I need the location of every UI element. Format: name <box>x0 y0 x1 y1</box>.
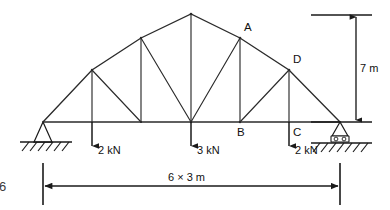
label-node-a: A <box>244 21 252 33</box>
left-ground-hatching <box>22 142 69 151</box>
load-left: 2 kN <box>92 122 121 156</box>
roller-support-triangle <box>332 122 348 136</box>
diagonal-web-4 <box>240 70 289 122</box>
truss-figure: A D B C <box>0 0 390 210</box>
load-middle-label: 3 kN <box>197 144 220 156</box>
roller-wheel-1 <box>334 137 338 141</box>
page-edge-mark: 6 <box>0 179 6 194</box>
joint-top-2 <box>140 37 142 39</box>
joint-d <box>288 69 291 72</box>
right-ground-hatching <box>313 143 368 152</box>
joint-apex <box>190 13 193 16</box>
joint-a <box>239 37 242 40</box>
diagonal-web-2 <box>141 38 191 122</box>
right-roller-support <box>311 122 372 152</box>
left-pinned-support <box>20 122 72 151</box>
load-right-label: 2 kN <box>295 144 318 156</box>
span-dim-label: 6 × 3 m <box>168 171 205 183</box>
truss-diagram-canvas: A D B C <box>0 0 390 210</box>
label-node-b: B <box>237 126 245 138</box>
pinned-support-triangle <box>34 122 52 142</box>
joint-b <box>239 121 241 123</box>
load-left-label: 2 kN <box>98 144 121 156</box>
load-middle: 3 kN <box>191 122 220 156</box>
label-node-d: D <box>293 53 301 65</box>
joint-top-1 <box>91 69 93 71</box>
height-dim-label: 7 m <box>360 62 378 74</box>
label-node-c: C <box>293 126 301 138</box>
joint-bottom-2 <box>140 121 142 123</box>
diagonal-web-1 <box>92 70 141 122</box>
height-dimension: 7 m <box>311 15 378 122</box>
vertical-web-members <box>92 14 289 122</box>
diagonal-web-3 <box>191 38 240 122</box>
roller-wheel-2 <box>342 137 346 141</box>
span-dimension: 6 × 3 m <box>43 163 340 205</box>
